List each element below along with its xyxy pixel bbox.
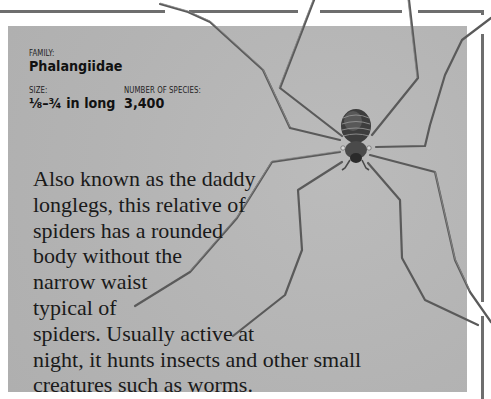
description-line: body without the — [33, 243, 361, 269]
description-line: narrow waist — [33, 269, 361, 295]
family-value: Phalangiidae — [29, 58, 122, 74]
description-line: typical of — [33, 295, 361, 321]
species-count-label: NUMBER OF SPECIES: — [124, 85, 201, 95]
description-line: spiders has a rounded — [33, 218, 361, 244]
description-paragraph: Also known as the daddy longlegs, this r… — [33, 166, 361, 398]
size-label: SIZE: — [29, 85, 47, 95]
spider-body — [341, 109, 371, 170]
description-line: creatures such as worms. — [33, 372, 361, 398]
description-line: night, it hunts insects and other small — [33, 347, 361, 373]
description-line: spiders. Usually active at — [33, 321, 361, 347]
description-line: longlegs, this relative of — [33, 192, 361, 218]
size-value: ⅛–¾ in long — [29, 95, 116, 111]
family-label: FAMILY: — [29, 48, 54, 58]
description-line: Also known as the daddy — [33, 166, 361, 192]
species-count-value: 3,400 — [124, 95, 164, 111]
